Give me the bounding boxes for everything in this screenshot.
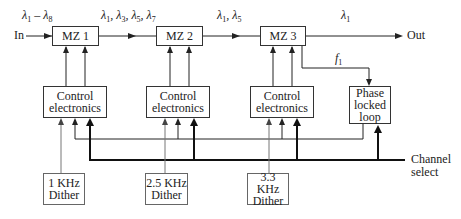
- output-label: Out: [385, 29, 425, 42]
- control-electronics-3: Control electronics: [250, 86, 314, 118]
- dither-1khz-box: 1 KHz Dither: [43, 173, 85, 205]
- channel-select-label: Channel select: [411, 153, 451, 179]
- input-wavelengths-label: λ1 – λ8: [22, 9, 52, 26]
- mz1-box: MZ 1: [52, 26, 99, 46]
- mz1-output-wavelengths: λ1, λ3, λ5, λ7: [101, 9, 156, 26]
- mz2-output-wavelengths: λ1, λ5: [217, 9, 241, 26]
- phase-locked-loop-box: Phase locked loop: [349, 86, 391, 124]
- mz3-box: MZ 3: [260, 26, 306, 46]
- control-electronics-1: Control electronics: [43, 86, 107, 118]
- mz2-box: MZ 2: [156, 26, 203, 46]
- f1-label: f1: [335, 52, 342, 69]
- mz3-output-wavelengths: λ1: [341, 9, 350, 26]
- control-electronics-2: Control electronics: [146, 86, 210, 118]
- diagram-canvas: In Out λ1 – λ8 λ1, λ3, λ5, λ7 λ1, λ5 λ1 …: [0, 0, 461, 219]
- dither-2-5khz-box: 2.5 KHz Dither: [145, 173, 188, 205]
- input-label: In: [14, 29, 24, 42]
- dither-3-3khz-box: 3.3 KHz Dither: [247, 173, 289, 205]
